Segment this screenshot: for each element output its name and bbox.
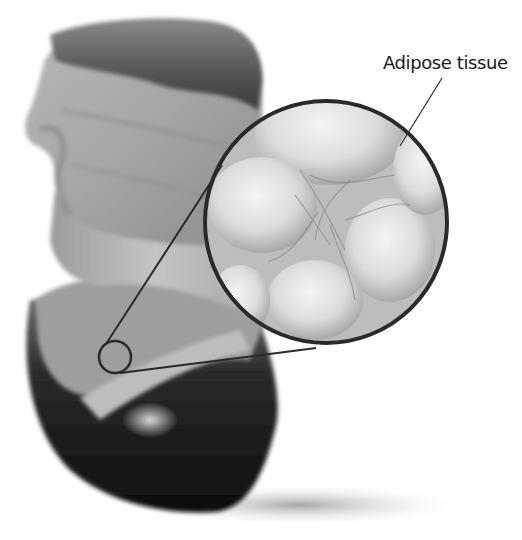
anatomy-illustration xyxy=(0,0,522,540)
illustration-canvas: Adipose tissue xyxy=(0,0,522,540)
adipose-tissue-label: Adipose tissue xyxy=(383,54,508,72)
label-pointer-line xyxy=(400,78,442,146)
shoulder-highlight xyxy=(122,402,178,438)
adipocyte xyxy=(393,125,457,215)
adipocyte xyxy=(267,260,363,340)
